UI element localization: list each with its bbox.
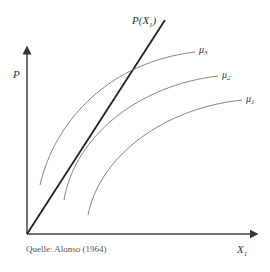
price-line-label: P(X1) [131, 14, 157, 29]
curve-mu2-label: μ2 [221, 69, 231, 82]
curve-mu1-label: μ1 [245, 93, 255, 106]
source-caption: Quelle: Alonso (1964) [26, 244, 107, 254]
curve-mu1 [88, 100, 242, 215]
x-axis-label: X1 [236, 243, 247, 258]
y-axis-label: P [12, 68, 20, 80]
curve-mu3-label: μ3 [198, 44, 208, 57]
price-line [27, 20, 165, 234]
curve-mu3 [40, 52, 195, 185]
bid-rent-diagram: P X1 P(X1) μ3 μ2 μ1 [0, 0, 270, 272]
